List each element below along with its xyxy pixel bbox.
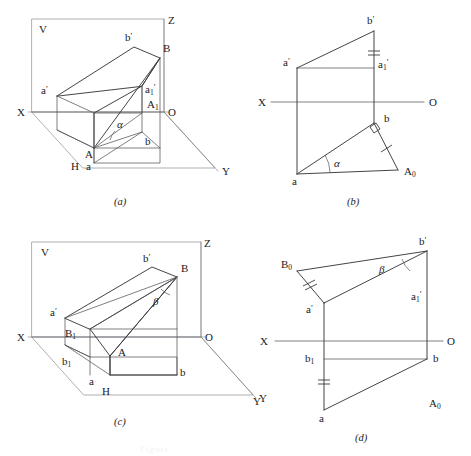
panel-d-label-b-prime: b′	[419, 235, 427, 247]
panel-b-a-prime-tick: ′	[288, 56, 290, 66]
panel-c-caption: (c)	[114, 416, 126, 428]
svg-text:A0: A0	[429, 397, 441, 411]
panel-d-label-b: b	[433, 352, 439, 364]
svg-text:a′: a′	[50, 306, 57, 318]
panel-a-caption: (a)	[114, 196, 127, 208]
svg-text:a1′: a1′	[411, 289, 422, 304]
panel-d: X O Y B0 b′ a′ a1′ b1 b a A0 β	[253, 235, 455, 444]
panel-b-label-b: b	[384, 112, 390, 124]
svg-text:b′: b′	[125, 31, 133, 43]
panel-c-label-b1: b1	[62, 355, 72, 369]
panel-d-A0-sub: 0	[437, 402, 441, 411]
panel-a-A1-sub: 1	[155, 103, 159, 112]
svg-text:A0: A0	[404, 165, 416, 179]
panel-a-a-prime-tick: ′	[46, 84, 48, 94]
panel-c-label-B1: B1	[65, 327, 76, 341]
panel-a-label-o: O	[168, 106, 176, 118]
panel-a-label-y: Y	[222, 165, 230, 177]
svg-text:B1: B1	[65, 327, 76, 341]
panel-d-a1-tick: ′	[420, 289, 422, 299]
panel-d-label-A0: A0	[429, 397, 441, 411]
panel-a-label-z: Z	[168, 14, 175, 26]
panel-b-angle-alpha	[325, 155, 330, 172]
panel-b-single-tick-marker	[381, 145, 392, 152]
panel-a-label-h: H	[71, 160, 79, 172]
panel-c-label-a: a	[89, 375, 94, 387]
panel-c-label-h: H	[102, 385, 110, 397]
panel-b-top-view	[297, 123, 398, 174]
svg-text:a′: a′	[283, 56, 290, 68]
svg-text:a1′: a1′	[378, 57, 389, 72]
panel-d-top-view	[324, 359, 427, 410]
panel-a-label-a: a	[86, 160, 91, 172]
panel-a-a1-tick: ′	[154, 82, 156, 92]
panel-c-label-b-prime: b′	[143, 252, 151, 264]
panel-c-b1-sub: 1	[68, 360, 72, 369]
panel-c-b-prime-tick: ′	[149, 252, 151, 262]
panel-b-label-x: X	[258, 96, 266, 108]
panel-d-label-a1-prime: a1′	[411, 289, 422, 304]
panel-b: X O a′ b′ a1′ a b A0 α (b)	[258, 14, 437, 208]
svg-text:a′: a′	[41, 84, 48, 96]
panel-d-front-view	[297, 251, 427, 410]
panel-a-label-b-prime: b′	[125, 31, 133, 43]
panel-d-label-a: a	[319, 412, 324, 424]
panel-d-label-B0: B0	[281, 258, 292, 272]
panel-a-label-a-prime: a′	[41, 84, 48, 96]
panel-a-label-alpha: α	[117, 118, 123, 130]
panel-c-label-beta: β	[152, 295, 159, 307]
technical-drawing-canvas: V X O Z Y H A B a b a′ b′ a1′ A1 α (a)	[0, 0, 471, 456]
panel-b-label-a-prime: a′	[283, 56, 290, 68]
panel-b-b-prime-tick: ′	[373, 14, 375, 24]
panel-d-label-a-prime: a′	[306, 303, 313, 315]
panel-a-b-prime-tick: ′	[131, 31, 133, 41]
panel-c-B1-sub: 1	[72, 332, 76, 341]
panel-d-label-o: O	[447, 335, 455, 347]
panel-b-A0-sub: 0	[412, 170, 416, 179]
panel-c-v-plane	[32, 242, 201, 337]
panel-a-label-x: X	[17, 106, 25, 118]
panel-a-label-b: b	[145, 135, 151, 147]
panel-d-double-tick-marker-upper	[303, 280, 317, 290]
panel-c-label-o: O	[205, 331, 213, 343]
panel-b-front-view	[297, 31, 374, 174]
svg-text:b′: b′	[143, 252, 151, 264]
panel-d-b1-sub: 1	[311, 357, 315, 366]
panel-a-label-v: V	[39, 23, 47, 35]
panel-d-label-x: X	[260, 335, 268, 347]
panel-b-label-a1-prime: a1′	[378, 57, 389, 72]
panel-d-a-prime-tick: ′	[311, 303, 313, 313]
panel-c-label-x: X	[17, 331, 25, 343]
panel-c-a-prime-tick: ′	[55, 306, 57, 316]
figure-root: V X O Z Y H A B a b a′ b′ a1′ A1 α (a)	[0, 0, 471, 456]
panel-a-A1-base: A	[147, 98, 155, 110]
panel-a-label-A1: A1	[147, 98, 159, 112]
panel-c-label-v: V	[41, 246, 49, 258]
panel-a-label-a1-prime: a1′	[145, 82, 156, 97]
svg-text:b1: b1	[62, 355, 72, 369]
panel-b-caption: (b)	[347, 196, 360, 208]
panel-c-label-B: B	[181, 262, 188, 274]
svg-text:b′: b′	[419, 235, 427, 247]
svg-text:a1′: a1′	[145, 82, 156, 97]
panel-a-h-plane	[32, 112, 215, 168]
panel-c-label-b: b	[180, 366, 186, 378]
panel-c-B1-base: B	[65, 327, 72, 339]
panel-a-label-A: A	[85, 148, 93, 160]
panel-c-label-z: Z	[204, 237, 211, 249]
panel-d-caption: (d)	[355, 432, 368, 444]
panel-c: V X O Z Y H A B a b a′ b′ B1 b1 β (c)	[17, 237, 267, 428]
panel-a-v-plane	[32, 19, 164, 112]
panel-c-label-A: A	[118, 346, 126, 358]
panel-d-B0-sub: 0	[288, 263, 292, 272]
panel-d-B0-base: B	[281, 258, 288, 270]
panel-d-label-beta: β	[378, 263, 385, 275]
panel-b-label-A0: A0	[404, 165, 416, 179]
panel-a: V X O Z Y H A B a b a′ b′ a1′ A1 α (a)	[17, 14, 230, 208]
svg-text:B0: B0	[281, 258, 292, 272]
panel-b-label-a: a	[292, 175, 297, 187]
panel-d-label-b1: b1	[305, 352, 315, 366]
panel-b-label-alpha: α	[334, 157, 340, 169]
panel-d-angle-beta	[402, 259, 410, 271]
svg-text:A1: A1	[147, 98, 159, 112]
